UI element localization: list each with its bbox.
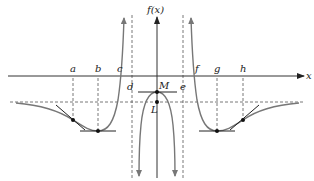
label-g: g <box>214 63 220 74</box>
label-M: M <box>158 80 170 91</box>
label-h: h <box>240 63 246 74</box>
x-axis-label: x <box>306 70 312 81</box>
curve-center-right <box>157 92 175 176</box>
tangent-at-a <box>56 105 85 130</box>
label-e: e <box>180 81 186 92</box>
label-f: f <box>194 63 201 74</box>
point-a <box>71 118 75 122</box>
curve-left-branch <box>16 18 124 131</box>
y-axis-label: f(x) <box>146 4 164 15</box>
tangent-at-h <box>230 105 259 130</box>
point-h <box>241 118 245 122</box>
point-g <box>215 129 219 133</box>
curve-right-branch <box>191 18 299 131</box>
label-b: b <box>95 63 101 74</box>
label-L: L <box>150 104 158 115</box>
label-a: a <box>70 63 76 74</box>
point-b <box>96 129 100 133</box>
label-c: c <box>117 63 123 74</box>
label-d: d <box>127 81 133 92</box>
function-graph: f(x) x a b c d M L e f g h <box>0 0 314 181</box>
